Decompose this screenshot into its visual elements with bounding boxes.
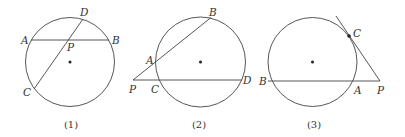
label-a-1: A: [20, 34, 29, 46]
label-c-2: C: [151, 83, 159, 95]
label-p-1: P: [66, 41, 75, 53]
center-dot-3: [311, 61, 314, 64]
caption-1: (1): [64, 119, 78, 130]
tangent-point-c-3: [347, 34, 351, 38]
label-p-2: P: [128, 83, 137, 95]
chord-cd-1: [34, 19, 83, 89]
label-c-3: C: [353, 27, 361, 39]
label-a-3: A: [353, 84, 362, 96]
label-p-3: P: [376, 84, 385, 96]
circle-power-diagrams: A B C D P A B C D P A B C P (1) (2) (3): [0, 0, 405, 137]
label-c-1: C: [23, 86, 31, 98]
label-b-2: B: [208, 6, 217, 18]
center-dot-1: [69, 61, 72, 64]
center-dot-2: [199, 61, 202, 64]
label-d-1: D: [79, 6, 89, 18]
tangent-pc-3: [336, 16, 380, 81]
caption-3: (3): [307, 119, 321, 130]
label-b-3: B: [258, 75, 267, 87]
figure-3: [268, 16, 380, 107]
label-a-2: A: [145, 54, 154, 66]
caption-2: (2): [192, 119, 206, 130]
label-d-2: D: [242, 74, 252, 86]
label-b-1: B: [111, 34, 120, 46]
